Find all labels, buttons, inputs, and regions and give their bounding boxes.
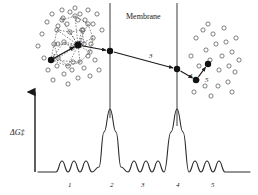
water-molecule [201, 28, 205, 32]
water-molecule [42, 56, 46, 60]
water-molecule [60, 8, 64, 12]
step-label-3: 3 [149, 52, 153, 60]
step-label-5: 5 [205, 76, 209, 84]
water-molecule [214, 42, 218, 46]
step-label-2: 2 [79, 36, 83, 44]
solvent-right-group [189, 22, 241, 98]
water-molecule [204, 48, 208, 52]
baseline-label-3: 3 [141, 181, 145, 189]
water-molecule [220, 54, 224, 58]
water-molecule [206, 22, 210, 26]
water-molecule [189, 54, 193, 58]
water-molecule [68, 10, 72, 14]
water-molecule [227, 64, 231, 68]
water-molecule [65, 22, 69, 26]
coordination-bond [51, 60, 80, 62]
water-molecule [70, 68, 74, 72]
membrane-boundaries [110, 3, 177, 126]
water-molecule [230, 50, 234, 54]
water-molecule [40, 32, 44, 36]
water-molecule [76, 18, 80, 22]
y-axis-label: ΔG‡ [10, 128, 24, 137]
water-molecule [194, 36, 198, 40]
transport-arrow [82, 46, 106, 51]
ion-particle [174, 66, 180, 72]
water-molecule [97, 68, 101, 72]
water-molecule [216, 84, 220, 88]
water-molecule [86, 54, 90, 58]
ion-particle [205, 61, 211, 67]
water-molecule [237, 58, 241, 62]
water-molecule [78, 12, 82, 16]
water-molecule [211, 32, 215, 36]
ion-particle [107, 48, 113, 54]
water-molecule [192, 90, 196, 94]
ion-transport-path [82, 46, 206, 78]
water-molecule [93, 58, 97, 62]
water-molecule [55, 64, 59, 68]
water-molecule [86, 8, 90, 12]
step-label-4: 4 [189, 72, 193, 80]
baseline-label-4: 4 [176, 181, 180, 189]
water-molecule [95, 12, 99, 16]
transport-arrow [114, 52, 173, 68]
water-molecule [36, 44, 40, 48]
water-molecule [50, 12, 54, 16]
water-molecule [73, 6, 77, 10]
water-molecule [66, 82, 70, 86]
water-molecule [71, 60, 75, 64]
water-molecule [234, 36, 238, 40]
water-molecule [197, 64, 201, 68]
step-label-1: 1 [52, 52, 56, 60]
water-molecule [100, 28, 104, 32]
diagram-canvas [0, 0, 258, 195]
coordination-bond [75, 16, 78, 45]
water-molecule [203, 84, 207, 88]
baseline-label-1: 1 [68, 181, 72, 189]
free-energy-curve [38, 109, 250, 172]
water-molecule [224, 40, 228, 44]
water-molecule [230, 90, 234, 94]
water-molecule [56, 24, 60, 28]
water-molecule [46, 68, 50, 72]
hydration-shell-bonds [51, 16, 93, 66]
baseline-label-5: 5 [211, 181, 215, 189]
water-molecule [209, 94, 213, 98]
water-molecule [88, 74, 92, 78]
water-molecule [89, 42, 93, 46]
ion-particle [193, 77, 199, 83]
solvent-left-group [36, 6, 104, 86]
water-molecule [62, 72, 66, 76]
water-molecule [222, 26, 226, 30]
water-molecule [217, 68, 221, 72]
water-molecule [82, 66, 86, 70]
water-molecule [76, 76, 80, 80]
water-molecule [51, 78, 55, 82]
water-molecule [45, 20, 49, 24]
membrane-label: Membrane [126, 12, 161, 21]
water-molecule [226, 80, 230, 84]
water-molecule [91, 22, 95, 26]
water-molecule [233, 70, 237, 74]
baseline-label-2: 2 [110, 181, 114, 189]
figure-container: Membrane ΔG‡ 12345 12345 [0, 0, 258, 195]
